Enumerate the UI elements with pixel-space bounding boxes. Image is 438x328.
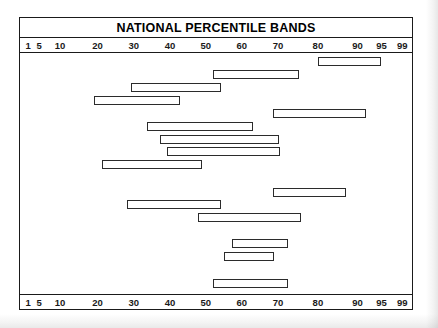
tick-label-top-10: 10 [55,38,66,53]
tick-label-top-50: 50 [201,38,212,53]
tick-label-top-40: 40 [165,38,176,53]
tick-label-top-60: 60 [237,38,248,53]
percentile-band [318,57,382,66]
tick-label-bottom-90: 90 [352,295,363,310]
percentile-band [131,83,222,92]
percentile-band [198,213,301,222]
tick-label-bottom-60: 60 [237,295,248,310]
percentile-band [232,239,288,248]
tick-label-bottom-70: 70 [273,295,284,310]
tick-label-bottom-50: 50 [201,295,212,310]
percentile-scale-bottom: 151020304050607080909599 [20,294,412,309]
bands-plot-area [20,53,412,294]
percentile-bands-chart: NATIONAL PERCENTILE BANDS 15102030405060… [19,17,413,310]
percentile-band [147,122,252,131]
tick-label-bottom-1: 1 [26,295,31,310]
tick-label-bottom-10: 10 [55,295,66,310]
tick-label-bottom-30: 30 [128,295,139,310]
tick-label-bottom-5: 5 [37,295,42,310]
tick-label-bottom-99: 99 [397,295,408,310]
percentile-band [160,135,278,144]
page-edge-shadow-right [426,0,438,328]
page-root: NATIONAL PERCENTILE BANDS 15102030405060… [0,0,438,328]
tick-label-top-80: 80 [313,38,324,53]
percentile-band [102,160,202,169]
tick-label-top-1: 1 [26,38,31,53]
percentile-band [224,252,274,261]
percentile-scale-top: 151020304050607080909599 [20,38,412,53]
tick-label-top-90: 90 [352,38,363,53]
tick-label-bottom-20: 20 [92,295,103,310]
tick-label-top-20: 20 [92,38,103,53]
percentile-band [167,147,279,156]
percentile-band [273,188,346,197]
tick-label-bottom-95: 95 [376,295,387,310]
chart-title: NATIONAL PERCENTILE BANDS [20,18,412,38]
percentile-band [213,70,300,79]
percentile-band [127,200,221,209]
tick-label-bottom-80: 80 [313,295,324,310]
percentile-band [213,279,288,288]
percentile-band [273,109,366,118]
percentile-band [94,96,181,105]
tick-label-top-30: 30 [128,38,139,53]
tick-label-top-95: 95 [376,38,387,53]
tick-label-top-99: 99 [397,38,408,53]
tick-label-bottom-40: 40 [165,295,176,310]
tick-label-top-70: 70 [273,38,284,53]
tick-label-top-5: 5 [37,38,42,53]
page-edge-shadow-bottom [0,314,438,328]
